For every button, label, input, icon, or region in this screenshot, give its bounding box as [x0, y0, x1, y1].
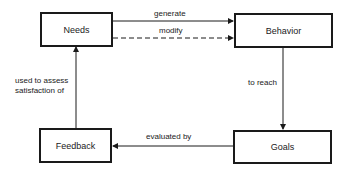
used-to-assess-label-line2: satisfaction of [15, 86, 64, 95]
behavior-label: Behavior [266, 26, 302, 36]
needs-node: Needs [40, 12, 113, 47]
goals-label: Goals [271, 142, 295, 152]
to-reach-label: to reach [248, 78, 277, 87]
feedback-label: Feedback [56, 141, 96, 151]
behavior-node: Behavior [234, 13, 333, 48]
used-to-assess-label-line1: used to assess [15, 76, 68, 85]
generate-label: generate [154, 9, 186, 18]
feedback-node: Feedback [39, 128, 112, 163]
evaluated-by-label: evaluated by [146, 132, 191, 141]
goals-node: Goals [233, 130, 332, 164]
needs-label: Needs [63, 25, 89, 35]
modify-label: modify [159, 26, 183, 35]
